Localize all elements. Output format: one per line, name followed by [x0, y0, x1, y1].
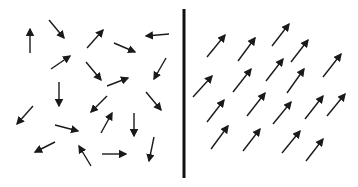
aligned-arrow-icon: [327, 94, 345, 116]
aligned-arrow-icon: [272, 24, 289, 46]
aligned-arrow-icon: [233, 69, 251, 92]
aligned-arrow-icon: [305, 96, 323, 119]
aligned-arrow-icon: [211, 126, 228, 149]
random-arrow-icon: [146, 34, 169, 36]
aligned-arrow-icon: [207, 100, 224, 122]
random-arrow-icon: [146, 92, 161, 110]
random-arrow-icon: [149, 137, 154, 161]
random-arrow-icon: [87, 30, 103, 48]
random-arrow-icon: [114, 43, 135, 52]
aligned-arrow-icon: [273, 102, 291, 124]
diagram-svg: [0, 0, 358, 187]
aligned-arrow-icon: [238, 38, 255, 61]
aligned-arrow-icon: [282, 131, 300, 153]
aligned-arrow-icon: [266, 59, 283, 81]
random-arrow-icon: [101, 113, 112, 133]
right-panel-aligned-arrows: [193, 24, 345, 161]
random-arrow-icon: [49, 20, 64, 38]
aligned-arrow-icon: [287, 69, 304, 93]
aligned-arrow-icon: [323, 54, 341, 77]
left-panel-random-arrows: [17, 20, 169, 166]
aligned-arrow-icon: [291, 40, 308, 62]
dipole-alignment-diagram: [0, 0, 358, 187]
aligned-arrow-icon: [193, 76, 212, 97]
random-arrow-icon: [17, 106, 33, 124]
aligned-arrow-icon: [247, 93, 265, 116]
aligned-arrow-icon: [243, 129, 260, 151]
random-arrow-icon: [51, 56, 70, 69]
random-arrow-icon: [154, 58, 166, 79]
random-arrow-icon: [86, 62, 101, 80]
aligned-arrow-icon: [306, 139, 323, 161]
random-arrow-icon: [55, 125, 78, 131]
random-arrow-icon: [107, 78, 128, 86]
aligned-arrow-icon: [207, 35, 225, 57]
random-arrow-icon: [79, 146, 91, 166]
random-arrow-icon: [35, 142, 55, 152]
random-arrow-icon: [91, 96, 107, 112]
